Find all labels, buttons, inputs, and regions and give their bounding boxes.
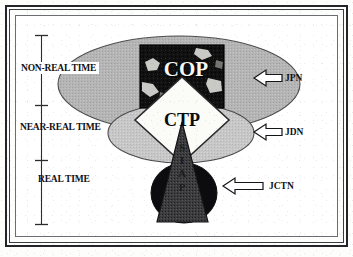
ctp-caption: CTP [152, 110, 212, 131]
jctn-left-arrow-icon [223, 178, 263, 194]
cop-caption: COP [156, 57, 216, 82]
siap-caption: S I A P [168, 141, 196, 194]
time-band-label-real-time: REAL TIME [38, 174, 90, 184]
siap-letter-a: A [168, 167, 196, 180]
time-band-label-non-real-time: NON-REAL TIME [19, 62, 99, 74]
figure-root: NON-REAL TIME NEAR-REAL TIME REAL TIME J… [0, 0, 353, 257]
siap-letter-p: P [168, 181, 196, 194]
jdn-left-arrow-icon [254, 124, 282, 140]
siap-letter-s: S [168, 141, 196, 154]
time-band-label-near-real-time: NEAR-REAL TIME [20, 122, 101, 132]
callout-label-jpn: JPN [285, 73, 302, 83]
callout-label-jdn: JDN [285, 127, 303, 137]
callout-label-jctn: JCTN [269, 181, 294, 191]
siap-letter-i: I [168, 154, 196, 167]
